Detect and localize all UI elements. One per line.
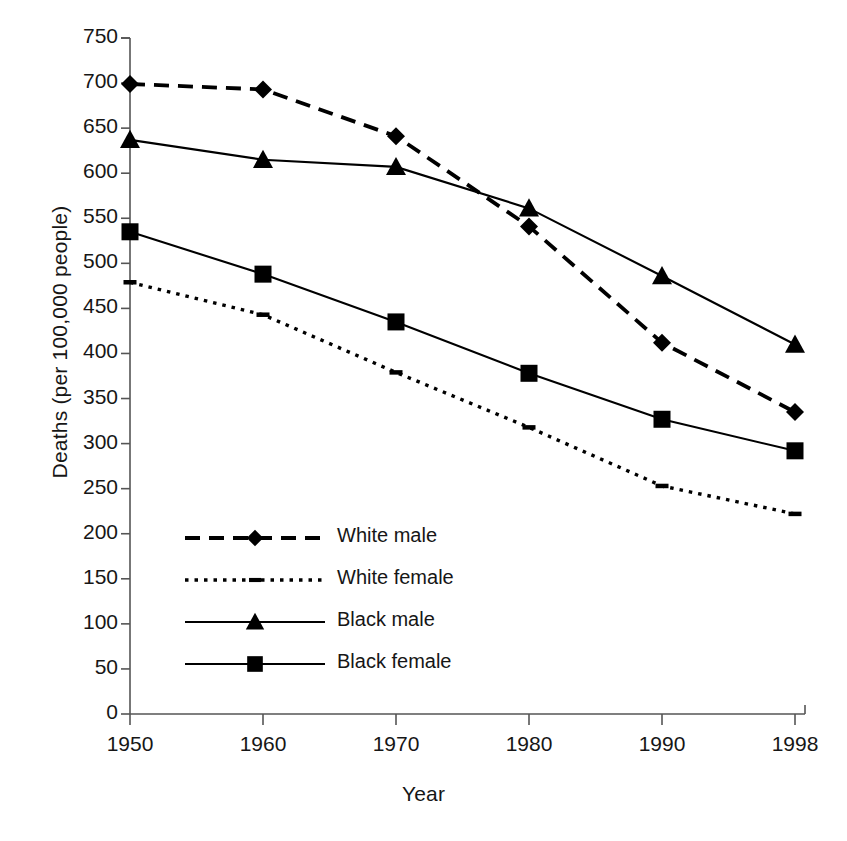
x-tick-label: 1960 [223, 732, 303, 756]
data-point-square [388, 313, 405, 330]
series-layer [120, 75, 805, 516]
x-tick-label: 1950 [90, 732, 170, 756]
y-tick-label: 700 [30, 69, 118, 93]
data-point-dash [523, 425, 536, 430]
series-line [130, 282, 795, 514]
y-tick-label: 150 [30, 565, 118, 589]
data-point-dash [124, 280, 137, 285]
y-tick-label: 350 [30, 385, 118, 409]
series-line [130, 140, 795, 345]
series-line [130, 84, 795, 412]
y-tick-label: 250 [30, 475, 118, 499]
legend-label: Black male [337, 608, 435, 631]
data-point-dash [257, 312, 270, 317]
data-point-dash [656, 484, 669, 489]
y-tick-label: 550 [30, 204, 118, 228]
y-tick-label: 50 [30, 655, 118, 679]
y-axis-title: Deaths (per 100,000 people) [48, 142, 72, 542]
y-tick-label: 500 [30, 249, 118, 273]
series-line [130, 232, 795, 451]
data-point-triangle [519, 198, 539, 216]
data-point-square [122, 223, 139, 240]
y-tick-label: 600 [30, 159, 118, 183]
data-point-diamond [247, 530, 264, 547]
y-tick-label: 400 [30, 339, 118, 363]
series-black-male [120, 130, 805, 353]
y-tick-label: 200 [30, 520, 118, 544]
data-point-square [247, 656, 263, 672]
x-tick-label: 1980 [489, 732, 569, 756]
data-point-triangle [785, 334, 805, 352]
x-axis-title: Year [0, 782, 847, 806]
y-tick-label: 450 [30, 294, 118, 318]
line-chart-canvas [0, 0, 847, 841]
y-tick-label: 650 [30, 114, 118, 138]
legend-label: White male [337, 524, 437, 547]
data-point-diamond [121, 75, 139, 93]
data-point-triangle [120, 130, 140, 148]
series-white-female [124, 280, 802, 516]
data-point-diamond [254, 80, 272, 98]
chart-figure: 7507006506005505004504003503002502001501… [0, 0, 847, 841]
data-point-diamond [786, 403, 804, 421]
data-point-dash [789, 512, 802, 517]
y-tick-label: 0 [30, 700, 118, 724]
data-point-square [654, 411, 671, 428]
series-white-male [121, 75, 804, 421]
legend-label: Black female [337, 650, 452, 673]
data-point-dash [390, 370, 403, 375]
y-tick-label: 300 [30, 430, 118, 454]
data-point-diamond [387, 127, 405, 145]
data-point-triangle [652, 266, 672, 284]
x-tick-label: 1990 [622, 732, 702, 756]
legend-label: White female [337, 566, 454, 589]
legend-lines [185, 530, 325, 672]
data-point-dash [249, 578, 261, 582]
x-tick-label: 1970 [356, 732, 436, 756]
data-point-square [521, 365, 538, 382]
y-tick-label: 100 [30, 610, 118, 634]
y-tick-label: 750 [30, 24, 118, 48]
data-point-square [787, 442, 804, 459]
x-tick-label: 1998 [755, 732, 835, 756]
data-point-square [255, 266, 272, 283]
series-black-female [122, 223, 804, 459]
